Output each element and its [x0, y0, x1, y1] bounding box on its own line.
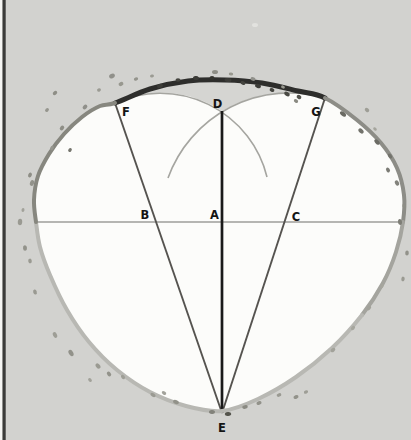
speckle: [212, 70, 218, 74]
point-label-D: D: [213, 97, 223, 111]
figure-page: FDGBACE: [0, 0, 411, 440]
speckle: [252, 23, 258, 27]
speckle: [176, 78, 181, 82]
page-edge-bar: [3, 0, 6, 440]
point-label-C: C: [292, 210, 300, 224]
point-label-A: A: [210, 208, 219, 222]
point-label-B: B: [141, 208, 150, 222]
point-label-F: F: [122, 105, 130, 119]
point-label-E: E: [218, 421, 226, 435]
page-edge-strip: [0, 0, 3, 440]
speckle: [210, 76, 215, 80]
geometry-diagram: FDGBACE: [0, 0, 411, 440]
point-label-G: G: [311, 105, 320, 119]
